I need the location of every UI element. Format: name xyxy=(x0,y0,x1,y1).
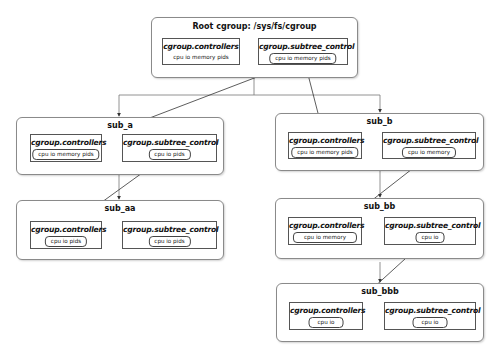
controllers-file[interactable]: cgroup.controllers cpu io xyxy=(289,302,363,330)
subtree-control-file[interactable]: cgroup.subtree_control cpu io memory xyxy=(382,132,476,159)
controllers-label: cgroup.controllers xyxy=(289,221,361,230)
subtree-control-value: cpu io pids xyxy=(148,149,190,160)
controllers-value: cpu io memory pids xyxy=(163,54,239,60)
subtree-control-file[interactable]: cgroup.subtree_control cpu io xyxy=(384,217,476,245)
subtree-control-value: cpu io xyxy=(416,232,445,243)
subtree-control-file[interactable]: cgroup.subtree_control cpu io pids xyxy=(122,221,217,249)
controllers-label: cgroup.controllers xyxy=(290,306,362,315)
controllers-file[interactable]: cgroup.controllers cpu io memory xyxy=(288,217,362,245)
subtree-control-label: cgroup.subtree_control xyxy=(123,225,216,234)
subtree-control-label: cgroup.subtree_control xyxy=(385,221,475,230)
controllers-value: cpu io xyxy=(309,317,344,328)
controllers-file[interactable]: cgroup.controllers cpu io memory pids xyxy=(162,38,240,65)
subtree-control-file[interactable]: cgroup.subtree_control cpu io pids xyxy=(122,134,217,162)
group-title: sub_b xyxy=(276,117,483,126)
controllers-label: cgroup.controllers xyxy=(31,225,101,234)
subtree-control-file[interactable]: cgroup.subtree_control cpu io xyxy=(384,302,476,330)
subtree-control-value: cpu io memory pids xyxy=(269,53,336,64)
controllers-value: cpu io memory pids xyxy=(291,147,358,158)
sub-b-cgroup: sub_b cgroup.controllers cpu io memory p… xyxy=(275,113,484,171)
group-title: sub_aa xyxy=(17,204,223,213)
controllers-label: cgroup.controllers xyxy=(289,136,361,145)
subtree-control-label: cgroup.subtree_control xyxy=(385,306,475,315)
group-title: Root cgroup: /sys/fs/cgroup xyxy=(152,22,357,31)
subtree-control-value: cpu io pids xyxy=(148,236,190,247)
controllers-file[interactable]: cgroup.controllers cpu io memory pids xyxy=(288,132,362,159)
controllers-value: cpu io pids xyxy=(45,236,87,247)
controllers-value: cpu io memory pids xyxy=(32,149,99,160)
subtree-control-label: cgroup.subtree_control xyxy=(259,42,347,51)
sub-aa-cgroup: sub_aa cgroup.controllers cpu io pids cg… xyxy=(16,200,224,260)
sub-a-cgroup: sub_a cgroup.controllers cpu io memory p… xyxy=(16,117,224,175)
controllers-label: cgroup.controllers xyxy=(163,42,239,51)
subtree-control-value: cpu io xyxy=(413,317,448,328)
controllers-file[interactable]: cgroup.controllers cpu io memory pids xyxy=(30,134,102,162)
root-cgroup: Root cgroup: /sys/fs/cgroup cgroup.contr… xyxy=(151,17,358,78)
subtree-control-label: cgroup.subtree_control xyxy=(383,136,475,145)
controllers-value: cpu io memory xyxy=(293,232,357,243)
subtree-control-value: cpu io memory xyxy=(402,147,456,158)
group-title: sub_bbb xyxy=(277,287,483,296)
subtree-control-file[interactable]: cgroup.subtree_control cpu io memory pid… xyxy=(258,38,348,65)
group-title: sub_a xyxy=(17,121,223,130)
controllers-label: cgroup.controllers xyxy=(31,138,101,147)
sub-bb-cgroup: sub_bb cgroup.controllers cpu io memory … xyxy=(275,198,484,259)
subtree-control-label: cgroup.subtree_control xyxy=(123,138,216,147)
controllers-file[interactable]: cgroup.controllers cpu io pids xyxy=(30,221,102,249)
group-title: sub_bb xyxy=(276,202,483,211)
sub-bbb-cgroup: sub_bbb cgroup.controllers cpu io cgroup… xyxy=(276,283,484,342)
